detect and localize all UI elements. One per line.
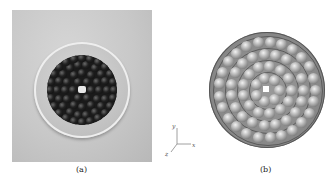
black-sphere: [78, 103, 86, 111]
black-sphere: [61, 86, 69, 94]
rendered-sphere: [304, 108, 315, 119]
black-sphere: [101, 109, 109, 117]
rendered-sphere: [265, 37, 276, 48]
black-sphere: [93, 78, 101, 86]
black-sphere: [55, 109, 63, 117]
black-sphere: [70, 71, 78, 79]
rendered-sphere: [304, 61, 315, 72]
black-sphere: [62, 114, 70, 122]
rendered-sphere: [265, 132, 276, 143]
center-gap: [78, 86, 86, 93]
black-sphere: [47, 86, 54, 94]
black-sphere: [47, 78, 55, 86]
packed-black-spheres: [47, 55, 117, 125]
black-sphere: [59, 70, 67, 78]
black-sphere: [95, 86, 103, 94]
black-sphere: [109, 78, 117, 86]
black-sphere: [86, 117, 94, 125]
rendered-sphere: [241, 128, 252, 139]
black-sphere: [78, 69, 86, 77]
black-sphere: [94, 114, 102, 122]
black-sphere: [53, 86, 61, 94]
rendered-sphere: [223, 56, 234, 67]
black-sphere: [78, 118, 86, 125]
rendered-sphere: [231, 48, 242, 59]
rendered-sphere: [308, 73, 319, 84]
caption-a: (a): [76, 165, 87, 174]
black-sphere: [74, 78, 82, 86]
black-sphere: [55, 95, 63, 103]
panel-b-render: [209, 32, 325, 148]
black-sphere: [63, 78, 71, 86]
black-sphere: [106, 70, 114, 78]
ring-outline: [213, 36, 323, 146]
black-sphere: [87, 86, 95, 94]
black-sphere: [70, 117, 78, 125]
black-sphere: [55, 77, 63, 85]
petri-dish: [34, 42, 130, 138]
black-sphere: [83, 78, 91, 86]
caption-b: (b): [260, 165, 271, 174]
panel-a-photo: [12, 10, 152, 162]
black-sphere: [69, 86, 77, 94]
axis-z-label: z: [165, 150, 168, 157]
rendered-sphere: [253, 37, 264, 48]
rendered-sphere: [253, 132, 264, 143]
black-sphere: [110, 86, 117, 94]
axis-triad: y x z: [165, 122, 201, 158]
black-sphere: [70, 55, 78, 63]
rendered-sphere: [310, 85, 321, 96]
axis-triad-icon: [165, 122, 201, 158]
rendered-sphere: [214, 91, 225, 102]
rendered-sphere: [217, 67, 228, 78]
axis-x-label: x: [192, 141, 195, 148]
axis-y-label: y: [172, 122, 175, 129]
rendered-sphere: [223, 113, 234, 124]
rendered-sphere: [217, 102, 228, 113]
